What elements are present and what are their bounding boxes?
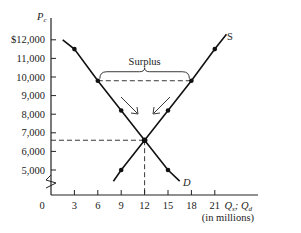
- equilibrium-point: [142, 137, 148, 143]
- y-tick-label: 8,000: [21, 109, 45, 120]
- surplus-label: Surplus: [129, 56, 161, 67]
- y-tick-label: 10,000: [16, 72, 45, 83]
- arrow-icon: [121, 97, 138, 114]
- y-ticks: 5,0006,0007,0008,0009,00010,00011,000$12…: [11, 34, 56, 175]
- supply-label: S: [227, 31, 233, 42]
- x-tick-label: 9: [119, 200, 124, 211]
- x-axis-note: (in millions): [202, 212, 255, 224]
- y-tick-label: $12,000: [11, 34, 45, 45]
- y-tick-label: 7,000: [21, 127, 45, 138]
- x-tick-label: 18: [186, 200, 197, 211]
- x-tick-label: 12: [139, 200, 150, 211]
- y-tick-label: 5,000: [21, 165, 45, 176]
- y-tick-label: 9,000: [21, 90, 45, 101]
- x-tick-label: 0: [39, 200, 44, 211]
- y-axis-title: Pc: [36, 11, 47, 24]
- demand-label: D: [182, 177, 191, 188]
- x-tick-label: 21: [210, 200, 221, 211]
- surplus-brace: [100, 68, 190, 79]
- supply-demand-chart: 5,0006,0007,0008,0009,00010,00011,000$12…: [0, 0, 301, 233]
- x-tick-label: 6: [95, 200, 100, 211]
- x-tick-label: 3: [72, 200, 77, 211]
- x-tick-label: 15: [163, 200, 174, 211]
- x-ticks: 036912151821: [39, 190, 220, 211]
- y-tick-label: 6,000: [21, 146, 45, 157]
- y-tick-label: 11,000: [17, 53, 46, 64]
